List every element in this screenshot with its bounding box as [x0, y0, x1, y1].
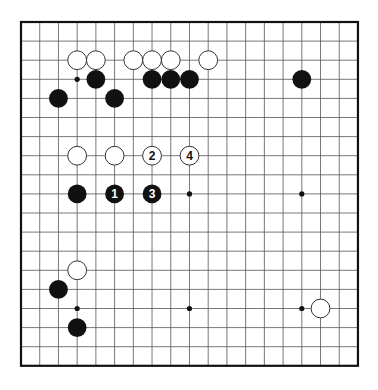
move-number-label: 4 — [186, 149, 193, 163]
stone-circle — [68, 261, 87, 280]
star-point — [299, 191, 304, 196]
white-stone: 4 — [180, 146, 199, 165]
white-stone — [68, 146, 87, 165]
black-stone — [68, 318, 87, 337]
stone-circle — [49, 280, 68, 299]
stone-circle — [86, 70, 105, 89]
black-stone — [292, 70, 311, 89]
black-stone — [161, 70, 180, 89]
white-stone — [161, 51, 180, 70]
move-number-label: 2 — [149, 149, 156, 163]
stone-circle — [124, 51, 143, 70]
white-stone — [311, 299, 330, 318]
stone-circle — [86, 51, 105, 70]
black-stone: 1 — [105, 185, 124, 204]
white-stone — [86, 51, 105, 70]
stone-circle — [199, 51, 218, 70]
stone-circle — [68, 185, 87, 204]
star-point — [187, 306, 192, 311]
black-stone — [143, 70, 162, 89]
black-stone — [49, 280, 68, 299]
move-number-label: 3 — [149, 187, 156, 201]
stone-circle — [180, 70, 199, 89]
star-point — [187, 191, 192, 196]
black-stone: 3 — [143, 185, 162, 204]
go-board[interactable]: 2413 — [0, 0, 378, 390]
stone-circle — [161, 70, 180, 89]
star-point — [75, 306, 80, 311]
stone-circle — [68, 146, 87, 165]
stone-circle — [105, 146, 124, 165]
stone-circle — [143, 51, 162, 70]
white-stone — [68, 51, 87, 70]
black-stone — [49, 89, 68, 108]
white-stone — [105, 146, 124, 165]
stone-circle — [161, 51, 180, 70]
black-stone — [68, 185, 87, 204]
stone-circle — [68, 51, 87, 70]
white-stone — [124, 51, 143, 70]
star-point — [75, 77, 80, 82]
white-stone — [143, 51, 162, 70]
white-stone — [199, 51, 218, 70]
stone-circle — [143, 70, 162, 89]
stone-circle — [311, 299, 330, 318]
stone-circle — [105, 89, 124, 108]
black-stone — [105, 89, 124, 108]
move-number-label: 1 — [111, 187, 118, 201]
stone-circle — [292, 70, 311, 89]
stone-circle — [49, 89, 68, 108]
star-point — [299, 306, 304, 311]
black-stone — [180, 70, 199, 89]
stone-circle — [68, 318, 87, 337]
black-stone — [86, 70, 105, 89]
white-stone — [68, 261, 87, 280]
white-stone: 2 — [143, 146, 162, 165]
